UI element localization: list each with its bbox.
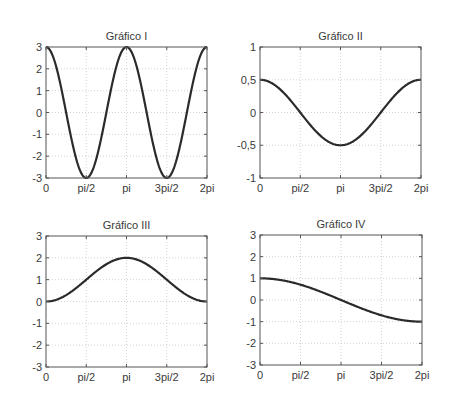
plot-grafico-ii: Gráfico II 0pi/2pi3pi/22pi-1-0,500,51 xyxy=(237,30,428,194)
x-tick-labels: 0pi/2pi3pi/22pi xyxy=(257,369,429,381)
x-tick-label: 2pi xyxy=(200,371,215,383)
x-tick-label: 0 xyxy=(43,371,49,383)
y-tick-label: 3 xyxy=(250,229,256,241)
y-tick-label: -1 xyxy=(32,317,42,329)
y-tick-label: -3 xyxy=(32,172,42,184)
x-tick-label: 2pi xyxy=(414,182,429,194)
y-tick-label: 0 xyxy=(250,107,256,119)
y-tick-label: -2 xyxy=(32,150,42,162)
y-tick-label: -1 xyxy=(32,128,42,140)
x-tick-label: pi xyxy=(122,182,131,194)
x-tick-label: pi/2 xyxy=(77,182,95,194)
figure-canvas: Gráfico I 0pi/2pi3pi/22pi-3-2-10123 Gráf… xyxy=(0,0,458,409)
plot-grafico-iii: Gráfico III 0pi/2pi3pi/22pi-3-2-10123 xyxy=(32,219,214,383)
plot-title: Gráfico IV xyxy=(317,218,367,230)
y-tick-label: 1 xyxy=(250,41,256,53)
y-tick-label: 1 xyxy=(36,274,42,286)
plot-grafico-iv: Gráfico IV 0pi/2pi3pi/22pi-3-2-10123 xyxy=(246,218,429,381)
x-tick-label: 2pi xyxy=(200,182,215,194)
x-tick-label: 3pi/2 xyxy=(370,369,394,381)
plot-title: Gráfico II xyxy=(318,30,363,42)
plot-grafico-i: Gráfico I 0pi/2pi3pi/22pi-3-2-10123 xyxy=(32,30,214,194)
y-tick-labels: -1-0,500,51 xyxy=(237,41,256,184)
y-tick-label: -0,5 xyxy=(237,139,256,151)
x-tick-label: 3pi/2 xyxy=(155,371,179,383)
y-tick-label: 0,5 xyxy=(241,74,256,86)
y-tick-label: 0 xyxy=(36,107,42,119)
y-tick-label: 0 xyxy=(250,294,256,306)
plot-title: Gráfico I xyxy=(106,30,148,42)
y-tick-label: -1 xyxy=(246,316,256,328)
x-tick-labels: 0pi/2pi3pi/22pi xyxy=(43,182,214,194)
y-tick-label: 1 xyxy=(250,272,256,284)
x-tick-label: 3pi/2 xyxy=(155,182,179,194)
x-tick-label: pi/2 xyxy=(292,369,310,381)
x-tick-label: 0 xyxy=(43,182,49,194)
x-tick-label: 3pi/2 xyxy=(369,182,393,194)
y-tick-label: 3 xyxy=(36,41,42,53)
y-tick-label: 0 xyxy=(36,296,42,308)
y-tick-label: -2 xyxy=(32,339,42,351)
x-tick-label: 2pi xyxy=(415,369,430,381)
y-tick-label: 3 xyxy=(36,230,42,242)
y-tick-label: 1 xyxy=(36,85,42,97)
x-tick-labels: 0pi/2pi3pi/22pi xyxy=(43,371,214,383)
y-tick-label: -3 xyxy=(32,361,42,373)
y-tick-labels: -3-2-10123 xyxy=(32,41,42,184)
x-tick-label: 0 xyxy=(257,182,263,194)
y-tick-labels: -3-2-10123 xyxy=(32,230,42,373)
x-tick-label: pi/2 xyxy=(77,371,95,383)
y-tick-label: 2 xyxy=(36,252,42,264)
y-tick-label: -1 xyxy=(246,172,256,184)
x-tick-label: pi xyxy=(337,369,346,381)
x-tick-label: pi xyxy=(336,182,345,194)
figure: Gráfico I 0pi/2pi3pi/22pi-3-2-10123 Gráf… xyxy=(0,0,458,409)
plot-title: Gráfico III xyxy=(103,219,151,231)
y-tick-label: -2 xyxy=(246,337,256,349)
y-tick-labels: -3-2-10123 xyxy=(246,229,256,371)
y-tick-label: -3 xyxy=(246,359,256,371)
y-tick-label: 2 xyxy=(250,251,256,263)
y-tick-label: 2 xyxy=(36,63,42,75)
x-tick-label: 0 xyxy=(257,369,263,381)
x-tick-label: pi xyxy=(122,371,131,383)
x-tick-labels: 0pi/2pi3pi/22pi xyxy=(257,182,428,194)
x-tick-label: pi/2 xyxy=(291,182,309,194)
